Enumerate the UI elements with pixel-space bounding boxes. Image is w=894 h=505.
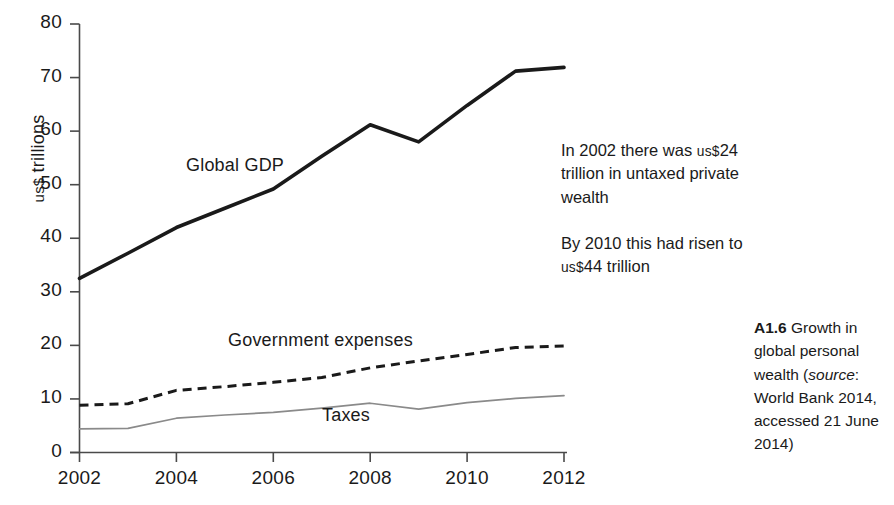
- series-label-government-expenses: Government expenses: [228, 330, 413, 351]
- y-axis-tick-label: 80: [14, 11, 62, 33]
- x-axis-tick-label: 2006: [228, 467, 318, 489]
- y-axis-tick-label: 10: [14, 386, 62, 408]
- figure-container: us$ trillions 01020304050607080 20022004…: [0, 0, 894, 505]
- caption-source-word: source: [808, 366, 855, 383]
- annotation-paragraph-1: In 2002 there was us$24 trillion in unta…: [561, 139, 779, 209]
- annotation-2-text-a: By 2010 this had risen to: [561, 234, 743, 252]
- annotation-2-text-b: 44 trillion: [584, 257, 650, 275]
- annotation-1-currency: us$: [697, 144, 720, 159]
- series-line-global-gdp: [80, 67, 565, 278]
- y-axis-tick-label: 30: [14, 279, 62, 301]
- y-axis-ticks: [70, 24, 80, 453]
- x-axis-tick-label: 2010: [422, 467, 512, 489]
- x-axis-tick-label: 2004: [131, 467, 221, 489]
- y-axis-tick-label: 60: [14, 118, 62, 140]
- y-axis-tick-label: 70: [14, 65, 62, 87]
- series-label-global-gdp: Global GDP: [186, 155, 284, 176]
- chart-annotation: In 2002 there was us$24 trillion in unta…: [561, 139, 779, 278]
- x-axis-tick-label: 2012: [519, 467, 609, 489]
- data-series-group: [80, 67, 565, 429]
- series-label-taxes: Taxes: [322, 405, 370, 426]
- y-axis-tick-label: 20: [14, 332, 62, 354]
- x-axis-ticks: [80, 453, 565, 463]
- figure-caption: A1.6 Growth in global personal wealth (s…: [754, 316, 886, 456]
- y-axis-tick-label: 0: [14, 440, 62, 462]
- caption-figure-number: A1.6: [754, 319, 787, 336]
- y-axis-tick-label: 40: [14, 225, 62, 247]
- x-axis-tick-label: 2008: [325, 467, 415, 489]
- annotation-paragraph-2: By 2010 this had risen to us$44 trillion: [561, 232, 779, 279]
- annotation-2-currency: us$: [561, 260, 584, 275]
- chart-plot: [0, 0, 620, 505]
- series-line-government-expenses: [80, 346, 565, 405]
- y-axis-tick-label: 50: [14, 172, 62, 194]
- annotation-1-text-a: In 2002 there was: [561, 141, 697, 159]
- x-axis-tick-label: 2002: [35, 467, 125, 489]
